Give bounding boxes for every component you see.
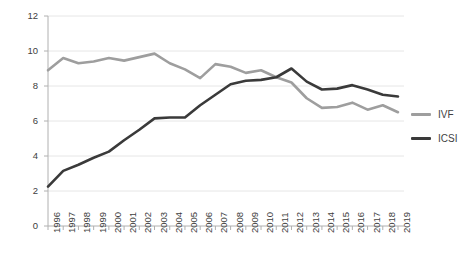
x-tick-label: 1996 <box>52 212 62 233</box>
y-tick-label: 0 <box>16 221 38 231</box>
legend-item-ivf[interactable]: IVF <box>411 102 471 126</box>
x-tick-label: 1998 <box>82 212 92 233</box>
chart-container: 024681012 199619971998199920002001200220… <box>0 0 473 261</box>
x-tick-label: 2009 <box>250 212 260 233</box>
x-tick-label: 2013 <box>311 212 321 233</box>
axes <box>44 16 48 226</box>
chart-legend: IVFICSI <box>411 102 471 150</box>
gridlines <box>48 16 404 226</box>
x-tick-label: 2003 <box>159 212 169 233</box>
y-tick-label: 2 <box>16 186 38 196</box>
x-tick-label: 2017 <box>372 212 382 233</box>
x-tick-label: 2007 <box>219 212 229 233</box>
y-tick-label: 12 <box>16 11 38 21</box>
x-tick-label: 2006 <box>204 212 214 233</box>
x-tick-label: 2008 <box>235 212 245 233</box>
legend-swatch-icon <box>411 137 431 140</box>
x-tick-label: 2018 <box>387 212 397 233</box>
x-tick-label: 2015 <box>341 212 351 233</box>
legend-label: ICSI <box>438 133 457 144</box>
legend-swatch-icon <box>411 113 431 116</box>
y-tick-label: 10 <box>16 46 38 56</box>
legend-item-icsi[interactable]: ICSI <box>411 126 471 150</box>
y-tick-label: 4 <box>16 151 38 161</box>
x-tick-label: 2014 <box>326 212 336 233</box>
x-tick-label: 2012 <box>295 212 305 233</box>
y-tick-label: 6 <box>16 116 38 126</box>
x-tick-label: 2001 <box>128 212 138 233</box>
x-tick-label: 1999 <box>98 212 108 233</box>
series-line-ivf <box>48 54 398 113</box>
x-tick-label: 2004 <box>174 212 184 233</box>
legend-label: IVF <box>438 109 454 120</box>
x-tick-label: 2010 <box>265 212 275 233</box>
x-tick-label: 2019 <box>402 212 412 233</box>
x-tick-label: 2016 <box>356 212 366 233</box>
x-tick-label: 2000 <box>113 212 123 233</box>
x-tick-label: 2005 <box>189 212 199 233</box>
x-tick-label: 1997 <box>67 212 77 233</box>
y-tick-label: 8 <box>16 81 38 91</box>
x-tick-label: 2011 <box>280 213 290 233</box>
series-lines <box>48 54 398 187</box>
x-tick-label: 2002 <box>143 212 153 233</box>
